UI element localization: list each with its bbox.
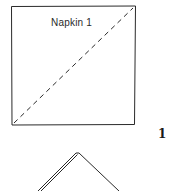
folded-triangle-inner-edge xyxy=(41,155,78,192)
diagram-canvas xyxy=(0,0,178,191)
napkin-label: Napkin 1 xyxy=(51,17,92,28)
napkin-folding-diagram: Napkin 1 1 xyxy=(0,0,178,191)
folded-triangle xyxy=(38,153,119,191)
step-number: 1 xyxy=(158,127,166,141)
